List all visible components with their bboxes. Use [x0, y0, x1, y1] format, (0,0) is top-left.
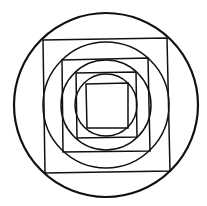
diagram-canvas — [0, 0, 207, 206]
square-inner — [86, 83, 128, 128]
nested-circles-squares-figure — [0, 0, 207, 206]
